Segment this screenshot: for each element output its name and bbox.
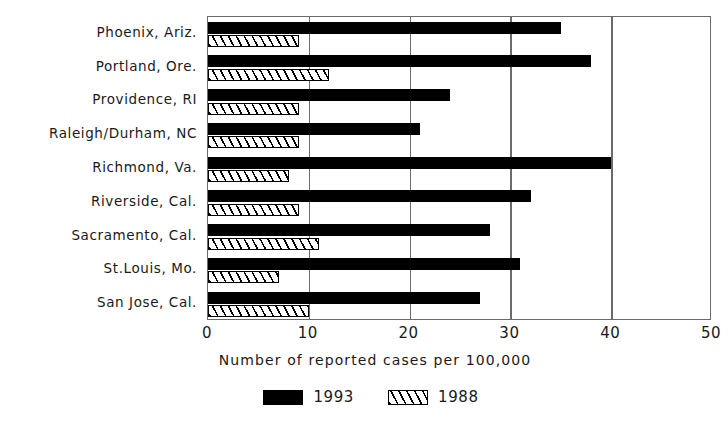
bar-1988 [208,103,299,115]
bar-chart: Phoenix, Ariz.Portland, Ore.Providence, … [0,0,728,437]
bar-1993 [208,89,450,101]
legend-swatch-1988 [388,390,428,405]
x-axis-tick-labels: 01020304050 [207,326,711,348]
bar-1993 [208,22,561,34]
gridline [611,17,613,319]
plot-area [207,16,711,320]
legend-item-1988: 1988 [388,390,479,405]
legend-label-1988: 1988 [438,390,479,405]
category-label: Portland, Ore. [0,60,197,74]
bar-1988 [208,170,289,182]
category-label: Raleigh/Durham, NC [0,127,197,141]
category-label: San Jose, Cal. [0,296,197,310]
bar-1993 [208,292,480,304]
bar-1988 [208,136,299,148]
bar-1993 [208,190,531,202]
bar-1993 [208,55,591,67]
bar-1988 [208,271,279,283]
category-label: Riverside, Cal. [0,195,197,209]
category-axis-labels: Phoenix, Ariz.Portland, Ore.Providence, … [0,16,197,320]
chart-legend: 1993 1988 [0,390,728,405]
bar-1988 [208,204,299,216]
x-tick-label: 20 [399,326,419,341]
category-label: Providence, RI [0,93,197,107]
bar-1993 [208,258,520,270]
x-tick-label: 0 [202,326,212,341]
x-tick-label: 50 [701,326,721,341]
x-axis-title: Number of reported cases per 100,000 [0,352,728,368]
bar-1988 [208,35,299,47]
bar-1988 [208,305,309,317]
bar-1993 [208,123,420,135]
bar-1993 [208,224,490,236]
legend-item-1993: 1993 [263,390,354,405]
bar-1988 [208,238,319,250]
category-label: Phoenix, Ariz. [0,26,197,40]
category-label: St.Louis, Mo. [0,262,197,276]
bar-1988 [208,69,329,81]
x-tick-label: 30 [499,326,519,341]
x-tick-label: 40 [600,326,620,341]
legend-label-1993: 1993 [313,390,354,405]
bar-1993 [208,157,611,169]
x-tick-label: 10 [298,326,318,341]
legend-swatch-1993 [263,390,303,405]
category-label: Richmond, Va. [0,161,197,175]
category-label: Sacramento, Cal. [0,229,197,243]
